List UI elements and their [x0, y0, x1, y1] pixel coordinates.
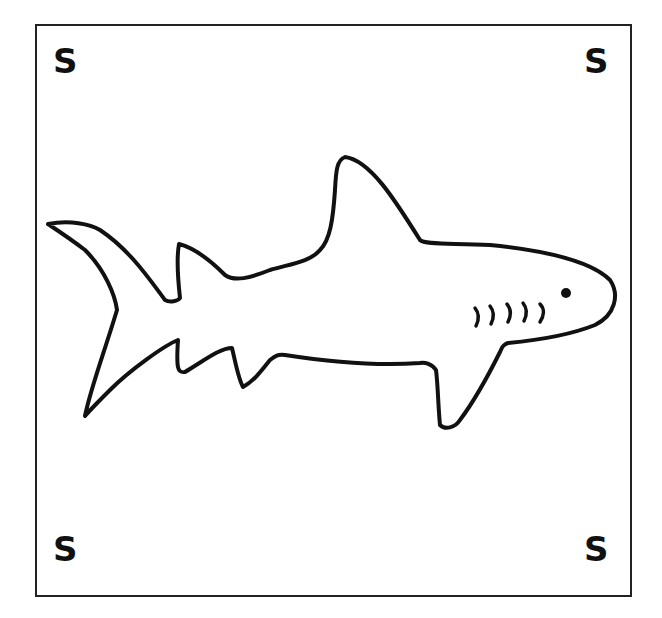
shark-outline: [48, 157, 615, 428]
shark-gills-icon: [475, 303, 543, 326]
shark-icon: [0, 0, 662, 618]
shark-eye-icon: [561, 288, 571, 298]
